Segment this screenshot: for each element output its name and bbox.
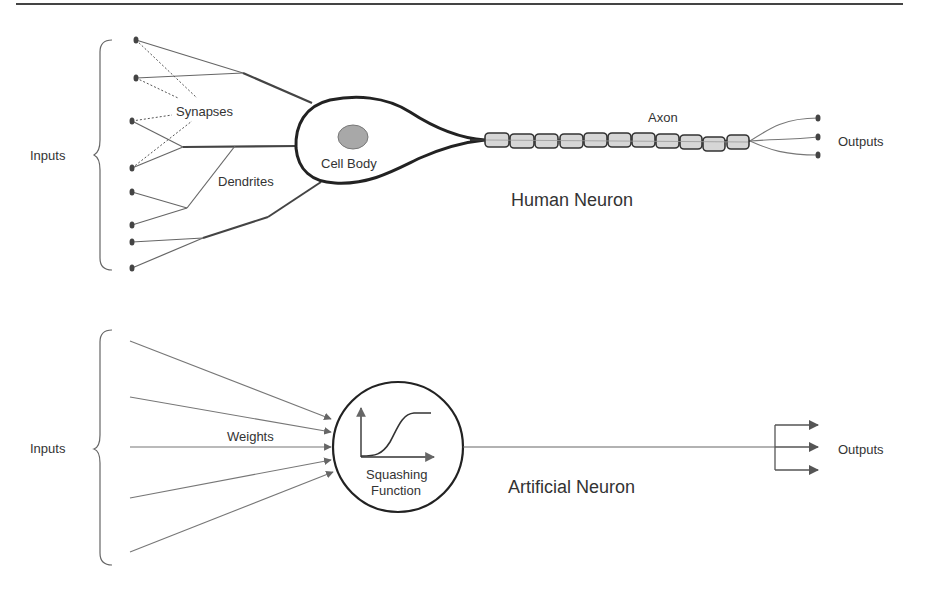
axon <box>470 133 750 151</box>
weights-label: Weights <box>227 429 274 444</box>
nucleus <box>338 125 368 149</box>
inputs-brace <box>94 330 112 565</box>
diagram-canvas <box>0 0 925 596</box>
dendrites-label: Dendrites <box>218 174 274 189</box>
squashing-label: Squashing <box>366 467 427 482</box>
artificial-neuron-title: Artificial Neuron <box>508 477 635 498</box>
cell-body-label: Cell Body <box>321 156 377 171</box>
axon-label: Axon <box>648 110 678 125</box>
synapses-label: Synapses <box>176 104 233 119</box>
input-terminals <box>130 37 139 272</box>
artificial-inputs-label: Inputs <box>30 441 65 456</box>
inputs-brace <box>94 40 112 270</box>
human-neuron <box>94 37 821 272</box>
weighted-inputs <box>130 341 333 552</box>
output-arrows <box>775 425 818 470</box>
dendrites <box>132 40 321 268</box>
output-terminals <box>816 115 821 159</box>
output-branches <box>750 118 818 155</box>
human-outputs-label: Outputs <box>838 134 884 149</box>
artificial-outputs-label: Outputs <box>838 442 884 457</box>
human-neuron-title: Human Neuron <box>511 190 633 211</box>
artificial-neuron <box>94 330 818 565</box>
human-inputs-label: Inputs <box>30 148 65 163</box>
function-label: Function <box>371 483 421 498</box>
